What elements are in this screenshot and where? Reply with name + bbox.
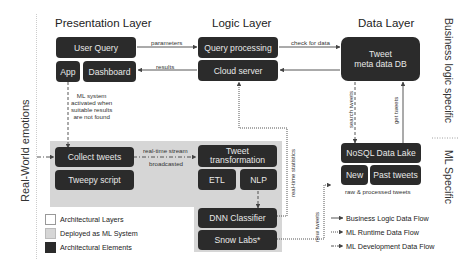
tweepy-script-box[interactable]: Tweepy script (55, 170, 134, 190)
past-tweets-box[interactable]: Past tweets (370, 165, 421, 185)
etl-box[interactable]: ETL (198, 169, 236, 190)
nlp-box[interactable]: NLP (240, 169, 277, 190)
legend-ml-runtime-flow: ML Runtime Data Flow (346, 228, 419, 237)
raw-processed-label: raw & processed tweets (345, 188, 411, 195)
user-query-box[interactable]: User Query (56, 37, 136, 58)
legend-business-flow: Business Logic Data Flow (346, 214, 429, 223)
check-for-data-label: check for data (291, 39, 330, 46)
tweet-meta-db-box[interactable]: Tweet meta data DB (341, 37, 420, 81)
gray-swatch (45, 228, 56, 239)
data-layer-title: Data Layer (358, 17, 414, 29)
results-label: results (156, 63, 174, 70)
legend-ml-dev-flow: ML Development Data Flow (346, 242, 434, 251)
tweet-db-line2: meta data DB (354, 59, 407, 69)
dashboard-box[interactable]: Dashboard (83, 61, 136, 82)
app-box[interactable]: App (56, 61, 80, 82)
tweet-db-line1: Tweet (369, 49, 392, 59)
parameters-label: parameters (151, 39, 182, 46)
ml-specific-label: ML Specific (443, 150, 455, 204)
cloud-server-box[interactable]: Cloud server (198, 60, 278, 81)
logic-layer-title: Logic Layer (212, 17, 271, 29)
dnn-classifier-box[interactable]: DNN Classifier (198, 208, 277, 228)
white-swatch (45, 214, 56, 225)
get-tweets-label: get tweets (393, 97, 399, 124)
business-logic-specific-label: Business logic specific (443, 18, 455, 123)
tweet-transformation-box[interactable]: Tweet transformation (198, 145, 277, 167)
realtime-stream-label: real-time stream (143, 147, 188, 154)
realtime-statistics-label: real-time statistics (290, 149, 296, 197)
snow-labs-box[interactable]: Snow Labs* (198, 230, 277, 250)
search-tweets-label: search tweets (348, 91, 354, 128)
query-processing-box[interactable]: Query processing (198, 37, 278, 58)
black-swatch (45, 242, 56, 253)
legend-ml-system: Deployed as ML System (45, 228, 138, 239)
collect-tweets-box[interactable]: Collect tweets (55, 147, 134, 167)
broadcasted-label: broadcasted (149, 160, 183, 167)
ml-activated-label: ML system activated when suitable result… (71, 92, 112, 120)
new-tweets-label: new tweets (314, 212, 320, 242)
legend-architectural-elements: Architectural Elements (45, 242, 132, 253)
nosql-data-lake-box[interactable]: NoSQL Data Lake (341, 143, 421, 163)
presentation-layer-title: Presentation Layer (55, 17, 152, 29)
legend-architectural-layers: Architectural Layers (45, 214, 124, 225)
new-box[interactable]: New (341, 165, 368, 185)
real-world-emotions-label: Real-World emotions (19, 99, 31, 202)
